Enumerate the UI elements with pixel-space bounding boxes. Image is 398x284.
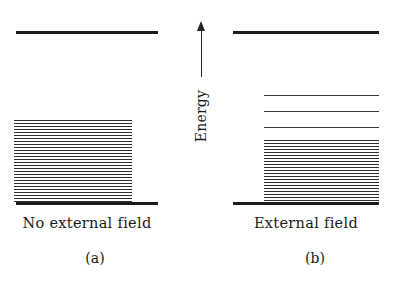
panel-b-split-level-1 <box>264 95 379 96</box>
panel-b-caption: External field <box>236 215 376 231</box>
panel-b-energy-band <box>264 140 379 203</box>
panel-a-energy-band <box>14 120 132 203</box>
panel-b-ground-energy-level <box>233 202 379 205</box>
energy-axis-shaft <box>201 30 203 77</box>
panel-a-sub-caption: (a) <box>45 250 145 266</box>
panel-b-split-level-2 <box>264 111 379 112</box>
panel-b-split-level-3 <box>264 127 379 128</box>
panel-b-upper-energy-level <box>233 31 379 34</box>
panel-a-upper-energy-level <box>16 31 158 34</box>
panel-b-sub-caption: (b) <box>265 250 365 266</box>
energy-level-diagram: No external field (a) Energy External fi… <box>0 0 398 284</box>
panel-a-ground-energy-level <box>16 202 158 205</box>
energy-axis-label: Energy <box>192 76 210 156</box>
panel-a-caption: No external field <box>2 215 172 231</box>
